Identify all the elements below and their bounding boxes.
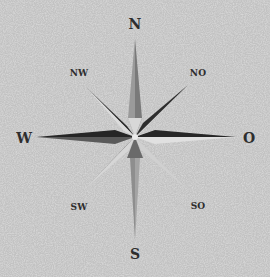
south-label: S [130,247,140,261]
southwest-label: SW [70,203,87,212]
northeast-label: NO [190,69,206,78]
north-label: N [129,17,142,31]
east-label: O [243,131,255,145]
compass-rose-graphic [0,0,270,277]
southeast-label: SO [191,202,206,211]
compass-rose-image: N S W O NW NO SW SO [0,0,270,277]
compass-center [132,134,138,140]
northwest-label: NW [70,69,89,78]
west-label: W [16,131,32,145]
